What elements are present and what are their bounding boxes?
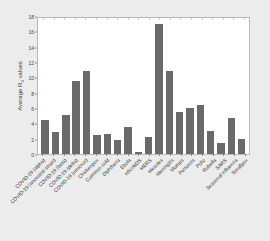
top-tick-mark xyxy=(64,18,65,20)
top-tick-mark xyxy=(191,18,192,20)
x-axis: COVID-19 (alpha)COVID-19 (ancestral stra… xyxy=(37,156,250,241)
bar xyxy=(186,108,193,154)
x-tick-mark xyxy=(213,154,214,156)
x-tick-mark xyxy=(85,154,86,156)
x-tick-mark xyxy=(64,154,65,156)
bar-slot xyxy=(102,18,112,154)
bar xyxy=(228,118,235,154)
x-tick-mark xyxy=(106,154,107,156)
plot-area xyxy=(37,17,250,155)
x-tick-mark xyxy=(53,154,54,156)
bar-slot xyxy=(50,18,60,154)
top-tick-mark xyxy=(128,18,129,20)
bar-slot xyxy=(226,18,236,154)
bar xyxy=(197,105,204,154)
bar-slot xyxy=(185,18,195,154)
bar-slot xyxy=(237,18,247,154)
bar-slot xyxy=(206,18,216,154)
bar xyxy=(114,140,121,154)
bar-slot xyxy=(40,18,50,154)
y-tick-label: 18 xyxy=(28,14,34,20)
top-tick-mark xyxy=(180,18,181,20)
bar-slot xyxy=(216,18,226,154)
top-tick-mark xyxy=(202,18,203,20)
bar-series xyxy=(38,18,249,154)
bar xyxy=(104,134,111,154)
bar xyxy=(124,127,131,154)
bar-slot xyxy=(112,18,122,154)
x-tick-mark xyxy=(202,154,203,156)
x-tick-mark xyxy=(170,154,171,156)
top-tick-mark xyxy=(107,18,108,20)
bar-slot xyxy=(133,18,143,154)
y-tick-label: 14 xyxy=(28,45,34,51)
bar-slot xyxy=(164,18,174,154)
x-tick-mark xyxy=(181,154,182,156)
top-tick-mark xyxy=(170,18,171,20)
y-tick-label: 10 xyxy=(28,75,34,81)
top-tick-mark xyxy=(159,18,160,20)
bar-slot xyxy=(61,18,71,154)
bar xyxy=(52,132,59,154)
bar-chart-figure: Average R0 values 024681012141618 COVID-… xyxy=(0,0,270,241)
bar-slot xyxy=(174,18,184,154)
bar xyxy=(176,112,183,154)
top-tick-mark xyxy=(149,18,150,20)
top-tick-mark xyxy=(96,18,97,20)
y-tick-label: 16 xyxy=(28,29,34,35)
top-tick-mark xyxy=(75,18,76,20)
bar xyxy=(93,135,100,154)
bar xyxy=(155,24,162,154)
y-axis-title-subscript: 0 xyxy=(20,80,25,82)
bar-slot xyxy=(143,18,153,154)
top-tick-mark xyxy=(54,18,55,20)
bar xyxy=(62,115,69,154)
bar-slot xyxy=(81,18,91,154)
top-tick-mark xyxy=(85,18,86,20)
bar xyxy=(166,71,173,154)
top-tick-mark xyxy=(223,18,224,20)
x-tick-mark xyxy=(138,154,139,156)
bar xyxy=(83,71,90,154)
x-tick-mark xyxy=(42,154,43,156)
y-tick-label: 12 xyxy=(28,60,34,66)
y-axis: Average R0 values 024681012141618 xyxy=(0,17,37,155)
bar xyxy=(238,139,245,154)
bar xyxy=(145,137,152,154)
x-tick-mark xyxy=(96,154,97,156)
bar-slot xyxy=(195,18,205,154)
bar xyxy=(41,120,48,154)
top-tick-mark xyxy=(138,18,139,20)
y-axis-title-suffix: values xyxy=(17,61,23,80)
y-axis-title-base: Average R xyxy=(17,83,23,111)
y-axis-title: Average R0 values xyxy=(17,36,25,136)
bar-slot xyxy=(154,18,164,154)
top-tick-mark xyxy=(233,18,234,20)
top-tick-mark xyxy=(43,18,44,20)
top-tick-mark xyxy=(244,18,245,20)
bar-slot xyxy=(92,18,102,154)
bar-slot xyxy=(123,18,133,154)
x-tick-mark xyxy=(117,154,118,156)
bar xyxy=(207,131,214,154)
bar xyxy=(72,81,79,154)
bar xyxy=(217,143,224,154)
top-tick-mark xyxy=(117,18,118,20)
top-tick-mark xyxy=(212,18,213,20)
x-tick-mark xyxy=(234,154,235,156)
x-tick-mark xyxy=(149,154,150,156)
bar-slot xyxy=(71,18,81,154)
